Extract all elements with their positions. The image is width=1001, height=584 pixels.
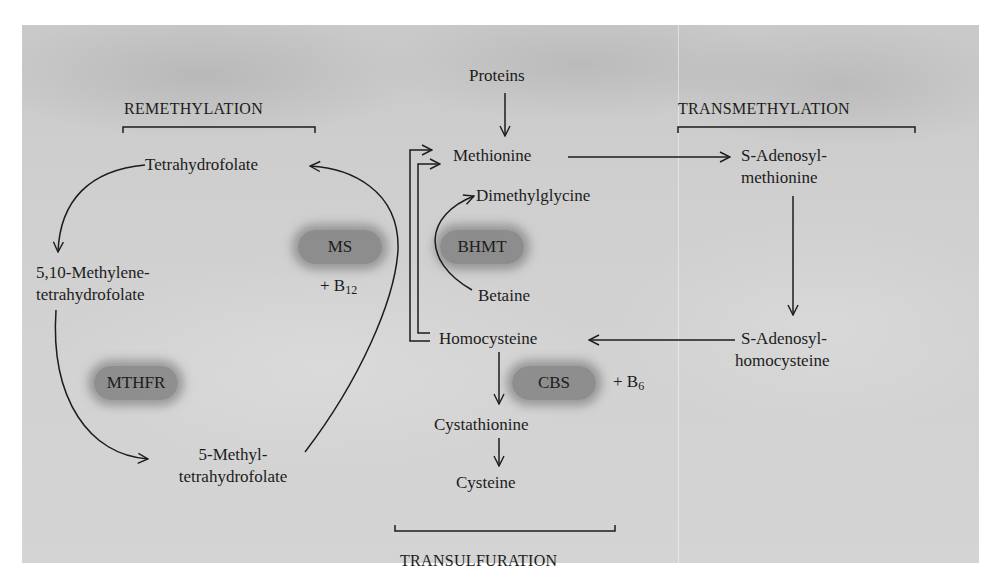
arrow-thf-methylenethf <box>58 165 145 252</box>
arrow-methylthf-thf <box>305 166 398 452</box>
arrow-betaine-dimethylglycine <box>435 196 474 290</box>
arrow-methylenethf-methylthf <box>55 310 148 459</box>
arrow-homocysteine-methionine-inner <box>418 164 440 333</box>
bracket-transmethylation <box>678 127 915 133</box>
bracket-transsulfuration <box>395 525 615 531</box>
arrow-homocysteine-methionine-outer <box>410 150 432 341</box>
pathway-arrows <box>0 0 1001 584</box>
bracket-remethylation <box>123 127 315 133</box>
